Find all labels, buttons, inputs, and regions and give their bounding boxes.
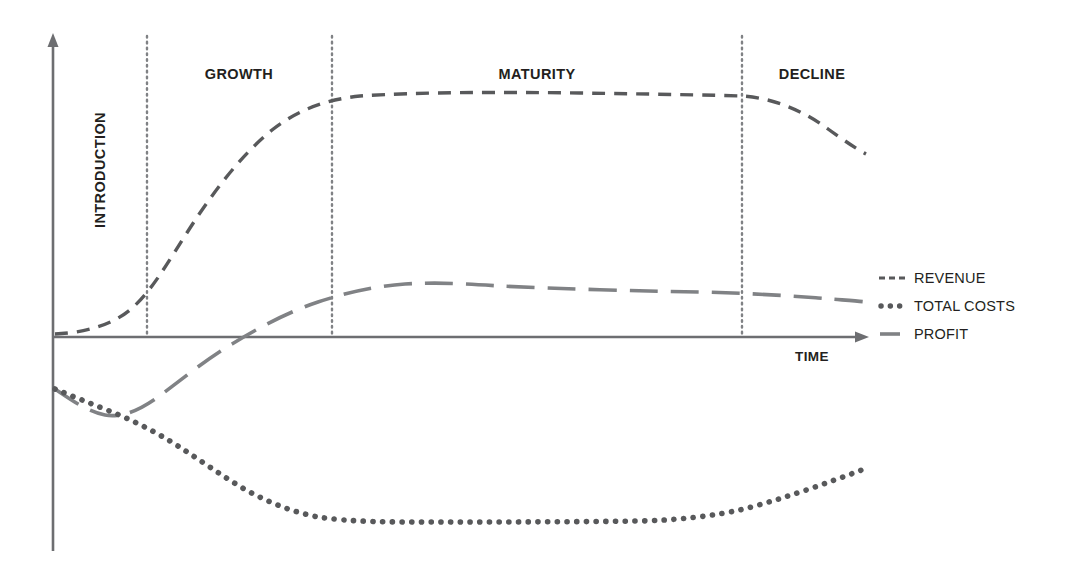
y-axis [48,33,59,551]
dotted-line-icon [878,300,906,312]
legend-label-profit: PROFIT [914,326,968,342]
stage-label-introduction: INTRODUCTION [92,112,108,228]
stage-label-growth: GROWTH [205,66,273,82]
solid-line-icon [878,328,906,340]
legend-label-total-costs: TOTAL COSTS [914,298,1015,314]
series-profit-curve [55,283,866,415]
series-total-costs-curve [55,389,866,522]
legend-label-revenue: REVENUE [914,270,986,286]
stage-label-decline: DECLINE [779,66,845,82]
product-life-cycle-chart: INTRODUCTION GROWTH MATURITY DECLINE TIM… [0,0,1068,567]
x-axis [53,332,869,343]
series-revenue-curve [55,92,866,334]
stage-label-maturity: MATURITY [498,66,575,82]
chart-legend: REVENUE TOTAL COSTS PROFIT [878,264,1058,348]
x-axis-label-time: TIME [795,349,829,364]
dashed-line-icon [878,272,906,284]
legend-item-profit: PROFIT [878,320,1058,348]
legend-item-revenue: REVENUE [878,264,1058,292]
legend-item-total-costs: TOTAL COSTS [878,292,1058,320]
